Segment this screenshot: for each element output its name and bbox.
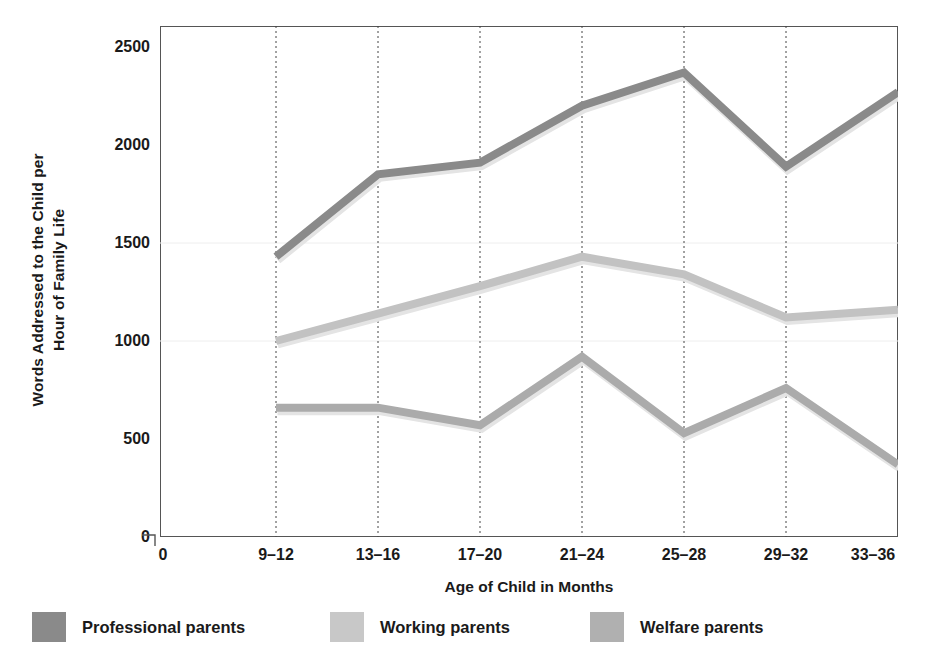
legend-swatch-icon: [32, 612, 66, 642]
legend-item[interactable]: Welfare parents: [590, 612, 764, 642]
series-line: [276, 257, 898, 341]
x-axis-tick-label: 33–36: [851, 546, 896, 564]
series-line: [276, 357, 898, 465]
series-line-shadow: [278, 260, 899, 344]
x-axis-tick-labels: 09–1213–1617–2021–2425–2829–3233–36: [0, 546, 935, 570]
y-axis-tick-label: 2500: [78, 38, 150, 56]
chart-figure: Words Addressed to the Child per Hour of…: [0, 0, 935, 666]
y-axis-tick-label: 500: [78, 430, 150, 448]
x-axis-tick-label: 0: [159, 546, 168, 564]
series-line-shadow: [278, 360, 899, 468]
y-axis-tick-label: 1500: [78, 234, 150, 252]
origin-tick-path: [142, 535, 155, 546]
legend-label: Working parents: [380, 618, 510, 637]
chart-legend: Professional parentsWorking parentsWelfa…: [0, 612, 935, 656]
y-axis-title-line-1: Words Addressed to the Child per: [27, 154, 48, 407]
legend-label: Professional parents: [82, 618, 245, 637]
x-axis-tick-label: 21–24: [560, 546, 605, 564]
y-axis-title-line-2: Hour of Family Life: [48, 154, 69, 407]
y-axis-tick-label: 2000: [78, 136, 150, 154]
legend-swatch-icon: [330, 612, 364, 642]
legend-item[interactable]: Working parents: [330, 612, 510, 642]
y-axis-tick-label: 1000: [78, 332, 150, 350]
origin-tick-mark: [142, 524, 164, 546]
x-axis-tick-label: 9–12: [258, 546, 294, 564]
x-axis-tick-label: 25–28: [662, 546, 707, 564]
legend-item[interactable]: Professional parents: [32, 612, 245, 642]
legend-label: Welfare parents: [640, 618, 764, 637]
x-axis-tick-label: 29–32: [764, 546, 809, 564]
legend-swatch-icon: [590, 612, 624, 642]
y-axis-tick-label: 0: [78, 528, 150, 546]
x-axis-tick-label: 17–20: [458, 546, 503, 564]
x-axis-tick-label: 13–16: [356, 546, 401, 564]
plot-area: [160, 26, 898, 537]
series-line: [276, 72, 898, 256]
x-axis-title: Age of Child in Months: [160, 578, 898, 596]
